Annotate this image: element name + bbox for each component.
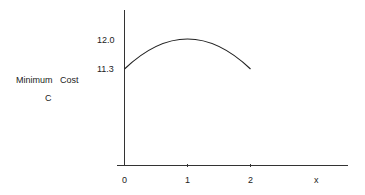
x-tick-label-0: 0	[122, 175, 127, 185]
y-axis-symbol: C	[45, 93, 52, 103]
chart-canvas	[0, 0, 365, 195]
y-axis-title: Minimum Cost	[16, 75, 79, 85]
cost-curve	[125, 39, 251, 69]
x-tick-label-1: 1	[185, 175, 190, 185]
x-tick-label-2: 2	[248, 175, 253, 185]
y-tick-label-12: 12.0	[97, 35, 115, 45]
x-axis-title: x	[314, 175, 319, 185]
y-tick-label-11-3: 11.3	[97, 64, 114, 74]
